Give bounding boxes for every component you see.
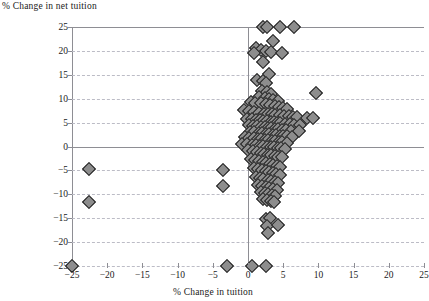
- y-tick-label: 10: [59, 94, 69, 104]
- y-tick-label: 20: [59, 46, 69, 56]
- data-point: [273, 20, 287, 34]
- x-axis-tick-labels: −25−20−15−10−50510152025: [72, 268, 424, 284]
- data-point: [275, 46, 289, 60]
- x-tick-label: −25: [65, 270, 80, 280]
- plot-area: [72, 27, 424, 266]
- x-tick-mark: [72, 263, 73, 268]
- data-point: [82, 195, 96, 209]
- x-tick-mark: [424, 263, 425, 268]
- x-tick-mark: [389, 263, 390, 268]
- data-point: [82, 162, 96, 176]
- data-point: [216, 179, 230, 193]
- x-tick-mark: [283, 263, 284, 268]
- x-tick-label: 20: [384, 270, 394, 280]
- x-tick-label: −5: [208, 270, 218, 280]
- x-tick-mark: [248, 263, 249, 268]
- data-point: [287, 20, 301, 34]
- x-tick-mark: [107, 263, 108, 268]
- x-tick-label: 5: [281, 270, 286, 280]
- x-tick-label: −15: [135, 270, 150, 280]
- y-tick-label: −10: [53, 189, 68, 199]
- x-tick-mark: [318, 263, 319, 268]
- x-tick-label: 25: [419, 270, 429, 280]
- x-tick-label: 10: [314, 270, 324, 280]
- y-tick-label: 25: [59, 22, 69, 32]
- y-tick-label: −15: [53, 213, 68, 223]
- x-tick-label: 15: [349, 270, 359, 280]
- x-tick-label: 0: [246, 270, 251, 280]
- y-tick-label: 15: [59, 70, 69, 80]
- x-tick-label: −20: [100, 270, 115, 280]
- x-tick-mark: [354, 263, 355, 268]
- x-tick-mark: [142, 263, 143, 268]
- x-tick-mark: [178, 263, 179, 268]
- x-tick-label: −10: [170, 270, 185, 280]
- y-axis-tick-labels: 2520151050−5−10−15−20−25: [30, 27, 68, 266]
- y-tick-label: −5: [58, 165, 68, 175]
- data-point: [261, 226, 275, 240]
- x-axis-title: % Change in tuition: [173, 287, 253, 297]
- y-axis-title: % Change in net tuition: [2, 1, 97, 11]
- data-point: [216, 163, 230, 177]
- y-tick-label: −20: [53, 237, 68, 247]
- x-tick-mark: [213, 263, 214, 268]
